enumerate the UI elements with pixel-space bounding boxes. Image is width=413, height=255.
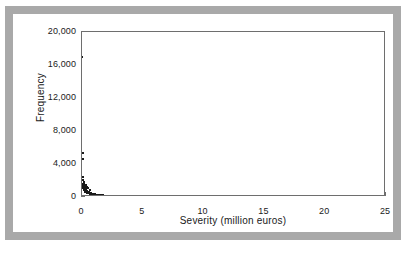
y-tick-label: 20,000	[12, 27, 76, 36]
scatter-point	[99, 194, 101, 195]
y-tick-label: 4,000	[12, 159, 76, 168]
y-tick-label-text: 4,000	[16, 159, 76, 168]
scatter-point	[82, 152, 84, 154]
scatter-point	[95, 194, 97, 195]
plot-area	[81, 31, 385, 196]
y-tick-label-text: 20,000	[16, 27, 76, 36]
y-tick-label-text: 12,000	[16, 93, 76, 102]
scatter-point	[82, 158, 84, 160]
chart-figure: Frequency 04,0008,00012,00016,00020,000 …	[0, 0, 413, 255]
scatter-points-layer	[82, 32, 384, 195]
x-tick-mark	[385, 192, 386, 196]
y-tick-mark	[81, 196, 85, 197]
y-tick-label: 8,000	[12, 126, 76, 135]
y-tick-label-text: 16,000	[16, 60, 76, 69]
scatter-point	[92, 193, 94, 195]
y-tick-label: 12,000	[12, 93, 76, 102]
scatter-point	[82, 56, 83, 58]
scatter-point	[82, 176, 84, 178]
x-axis-title: Severity (million euros)	[81, 215, 385, 226]
y-tick-label: 16,000	[12, 60, 76, 69]
scatter-point	[105, 195, 107, 196]
y-tick-label-text: 8,000	[16, 126, 76, 135]
scatter-point	[89, 189, 91, 191]
